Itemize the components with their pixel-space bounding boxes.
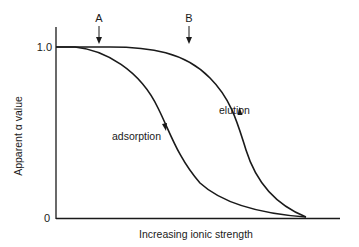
- arrow-down-icon: [162, 123, 167, 131]
- arrow-down-icon: [96, 37, 102, 44]
- marker-a-label: A: [95, 12, 103, 24]
- y-axis-label: Apparent α value: [12, 96, 24, 176]
- elution-label: elution: [219, 104, 250, 116]
- marker-a: A: [95, 12, 103, 44]
- y-tick-1.0: 1.0: [37, 41, 52, 53]
- adsorption-label: adsorption: [112, 130, 161, 142]
- marker-b-label: B: [185, 12, 192, 24]
- arrow-down-icon: [186, 37, 192, 44]
- x-axis-label: Increasing ionic strength: [139, 228, 253, 240]
- marker-b: B: [185, 12, 192, 44]
- y-tick-0: 0: [44, 212, 50, 224]
- elution-curve: [56, 47, 306, 217]
- diagram-figure: 1.0 0 Apparent α value Increasing ionic …: [0, 0, 359, 247]
- axes: [56, 27, 340, 219]
